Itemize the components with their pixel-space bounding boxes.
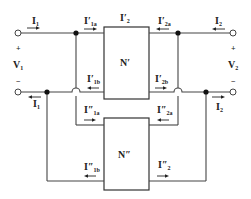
svg-text:I1: I1: [32, 15, 39, 27]
svg-text:I″1a: I″1a: [84, 104, 99, 116]
current-I1a-dprime: I″1a: [84, 104, 99, 122]
port2-voltage: V2: [228, 59, 238, 71]
current-I2a-prime: I′2a: [156, 15, 171, 31]
wire-bottom-left: [21, 88, 104, 92]
current-I1b-prime: I′1b: [87, 73, 101, 90]
terminal-port1-top: [15, 30, 21, 36]
terminal-port1-bottom: [15, 89, 21, 95]
block-lower-label: N″: [118, 149, 131, 160]
svg-text:I′2b: I′2b: [155, 73, 169, 85]
junction-dot-left-bottom: [44, 89, 49, 94]
svg-text:I′2: I′2: [120, 12, 130, 24]
current-I2-top: I2: [212, 15, 225, 31]
port1-voltage: V1: [13, 59, 23, 71]
current-I2-prime: I′2: [120, 12, 130, 24]
current-I1a-prime: I′1a: [84, 15, 97, 31]
junction-dot-right-bottom: [203, 89, 208, 94]
port1-minus: −: [16, 77, 21, 86]
terminal-port2-top: [230, 30, 236, 36]
port2-minus: −: [231, 77, 236, 86]
svg-text:I2: I2: [216, 101, 223, 113]
svg-text:I″1b: I″1b: [84, 161, 100, 173]
svg-text:I″2: I″2: [158, 159, 170, 171]
svg-text:I2: I2: [215, 15, 222, 27]
svg-text:I′1a: I′1a: [84, 15, 97, 27]
terminal-port2-bottom: [230, 89, 236, 95]
current-I2b-prime: I′2b: [155, 73, 169, 90]
current-I1-top: I1: [27, 15, 40, 30]
svg-text:I′2a: I′2a: [158, 15, 171, 27]
port2-plus: +: [231, 44, 236, 53]
svg-text:I1: I1: [33, 98, 40, 110]
current-I2a-dprime: I″2a: [157, 104, 172, 122]
current-I2-dprime: I″2: [157, 159, 170, 178]
two-port-parallel-diagram: N′ N″ + V1 − + V2 − I1 I′1a: [0, 0, 251, 199]
block-upper-label: N′: [120, 57, 130, 68]
junction-dot-right-top: [175, 30, 180, 35]
wire-bottom-right: [149, 88, 230, 92]
current-I2-bottom: I2: [212, 95, 225, 113]
junction-dot-left-top: [73, 30, 78, 35]
current-I1b-dprime: I″1b: [84, 161, 100, 178]
current-I1-bottom: I1: [28, 95, 41, 110]
port1-plus: +: [16, 44, 21, 53]
svg-text:I′1b: I′1b: [87, 73, 101, 85]
svg-text:I″2a: I″2a: [157, 104, 172, 116]
